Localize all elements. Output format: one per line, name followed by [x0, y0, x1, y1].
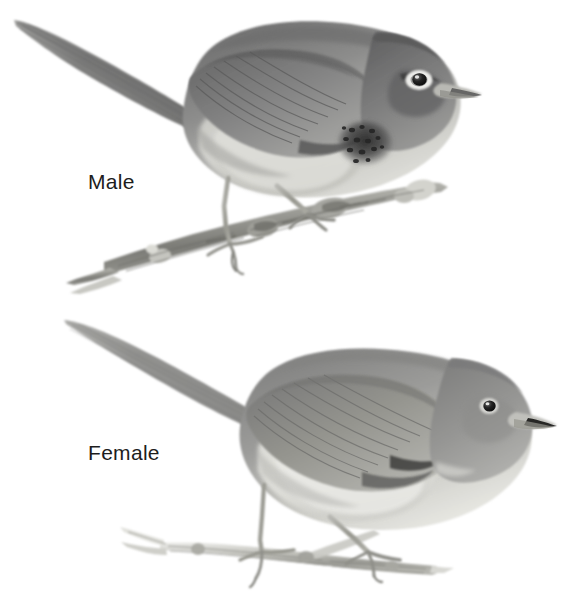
bird-plate-artwork [0, 0, 582, 609]
male-bird-illustration [14, 20, 482, 294]
male-tail [14, 20, 212, 132]
male-perch-branch [66, 176, 448, 294]
female-head [430, 358, 557, 483]
female-eye [483, 400, 495, 411]
female-tail [64, 320, 264, 427]
figure-label-female: Female [88, 442, 160, 463]
female-bill [508, 412, 557, 429]
male-throat-patch [338, 121, 392, 165]
illustration-plate: Male Female [0, 0, 582, 609]
figure-label-male: Male [88, 171, 135, 192]
male-eye [412, 73, 426, 85]
